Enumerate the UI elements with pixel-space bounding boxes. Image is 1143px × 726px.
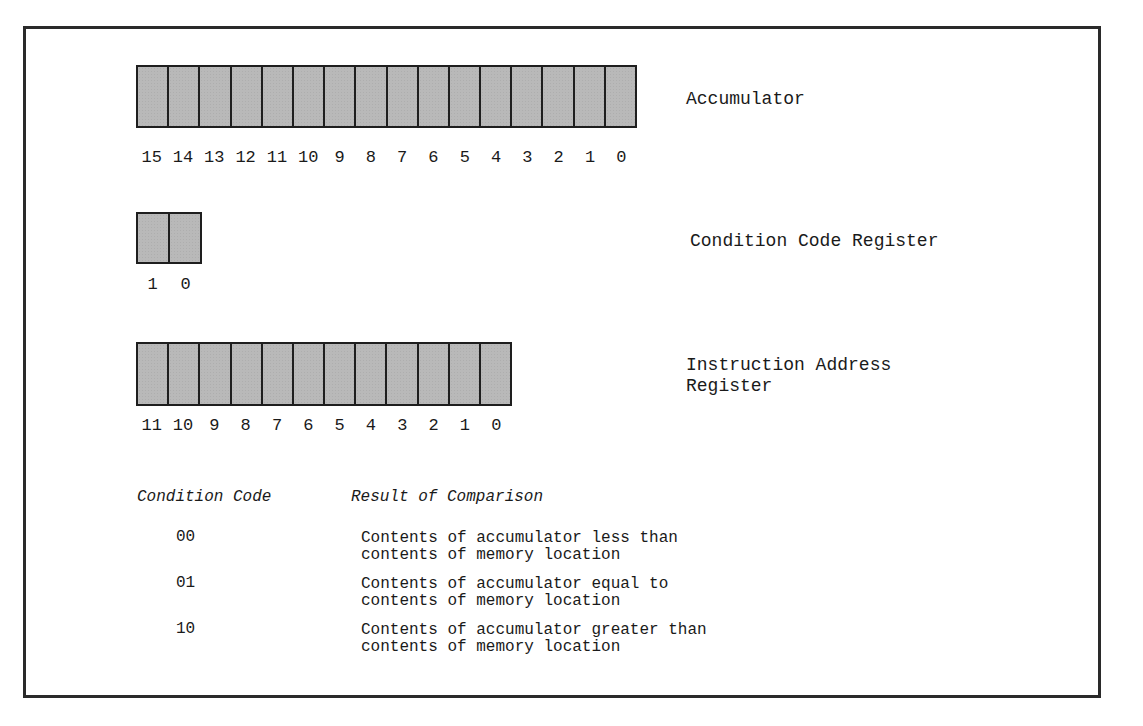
bit-index-label: 1: [449, 416, 480, 435]
bit-index-label: 7: [261, 416, 292, 435]
condition-code-value: 01: [176, 574, 195, 592]
bit-index-label: 0: [169, 275, 202, 294]
register-bit-cell: [419, 67, 448, 126]
instruction-address-register-label: Instruction Address Register: [686, 355, 891, 397]
bit-index-label: 4: [480, 148, 511, 167]
bit-index-label: 6: [418, 148, 449, 167]
bit-index-label: 10: [293, 148, 324, 167]
condition-code-value: 00: [176, 528, 195, 546]
register-bit-cell: [481, 67, 510, 126]
bit-index-label: 3: [512, 148, 543, 167]
bit-index-label: 1: [136, 275, 169, 294]
condition-code-register: [136, 212, 202, 264]
register-bit-cell: [294, 344, 323, 404]
register-bit-cell: [138, 214, 168, 262]
bit-index-label: 5: [324, 416, 355, 435]
register-bit-cell: [356, 67, 385, 126]
register-bit-cell: [169, 67, 198, 126]
register-bit-cell: [387, 344, 416, 404]
register-bit-cell: [606, 67, 635, 126]
comparison-result: Contents of accumulator greater than con…: [361, 622, 707, 656]
condition-code-value: 10: [176, 620, 195, 638]
register-bit-cell: [450, 67, 479, 126]
register-bit-cell: [200, 344, 229, 404]
register-bit-cell: [170, 214, 200, 262]
result-of-comparison-header: Result of Comparison: [351, 488, 543, 506]
register-bit-cell: [388, 67, 417, 126]
register-bit-cell: [450, 344, 479, 404]
condition-code-bit-labels: 10: [136, 275, 202, 294]
instruction-address-bit-labels: 11109876543210: [136, 416, 512, 435]
register-bit-cell: [356, 344, 385, 404]
instruction-address-register: [136, 342, 512, 406]
bit-index-label: 6: [293, 416, 324, 435]
comparison-result: Contents of accumulator equal to content…: [361, 576, 668, 610]
register-bit-cell: [169, 344, 198, 404]
bit-index-label: 3: [387, 416, 418, 435]
register-bit-cell: [263, 67, 292, 126]
bit-index-label: 15: [136, 148, 167, 167]
bit-index-label: 0: [606, 148, 637, 167]
register-bit-cell: [232, 344, 261, 404]
bit-index-label: 1: [574, 148, 605, 167]
condition-code-register-label: Condition Code Register: [690, 231, 938, 252]
bit-index-label: 7: [387, 148, 418, 167]
bit-index-label: 4: [355, 416, 386, 435]
bit-index-label: 11: [136, 416, 167, 435]
bit-index-label: 0: [481, 416, 512, 435]
register-bit-cell: [325, 67, 354, 126]
register-bit-cell: [481, 344, 510, 404]
bit-index-label: 12: [230, 148, 261, 167]
register-bit-cell: [294, 67, 323, 126]
bit-index-label: 2: [418, 416, 449, 435]
register-bit-cell: [138, 67, 167, 126]
register-bit-cell: [200, 67, 229, 126]
bit-index-label: 14: [167, 148, 198, 167]
bit-index-label: 9: [199, 416, 230, 435]
bit-index-label: 11: [261, 148, 292, 167]
bit-index-label: 2: [543, 148, 574, 167]
bit-index-label: 8: [230, 416, 261, 435]
condition-code-header: Condition Code: [137, 488, 271, 506]
register-bit-cell: [575, 67, 604, 126]
register-bit-cell: [543, 67, 572, 126]
bit-index-label: 8: [355, 148, 386, 167]
register-bit-cell: [138, 344, 167, 404]
comparison-result: Contents of accumulator less than conten…: [361, 530, 678, 564]
register-bit-cell: [232, 67, 261, 126]
bit-index-label: 13: [199, 148, 230, 167]
bit-index-label: 9: [324, 148, 355, 167]
register-bit-cell: [419, 344, 448, 404]
accumulator-register: [136, 65, 637, 128]
accumulator-label: Accumulator: [686, 89, 805, 110]
bit-index-label: 10: [167, 416, 198, 435]
accumulator-bit-labels: 1514131211109876543210: [136, 148, 637, 167]
register-bit-cell: [325, 344, 354, 404]
register-bit-cell: [263, 344, 292, 404]
bit-index-label: 5: [449, 148, 480, 167]
register-bit-cell: [512, 67, 541, 126]
